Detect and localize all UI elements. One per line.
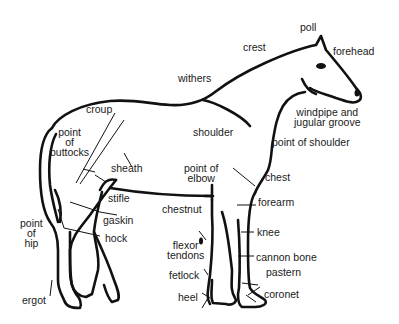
label-cannon-bone: cannon bone: [256, 252, 317, 262]
label-point-of-buttocks: point of buttocks: [50, 127, 89, 157]
label-fetlock: fetlock: [169, 270, 199, 280]
label-flexor-tendons: flexor tendons: [167, 240, 204, 260]
label-ergot: ergot: [22, 295, 46, 305]
label-heel: heel: [178, 292, 198, 302]
label-shoulder: shoulder: [193, 127, 233, 137]
label-coronet: coronet: [264, 289, 299, 299]
label-crest: crest: [243, 42, 266, 52]
label-withers: withers: [178, 73, 211, 83]
label-hock: hock: [105, 233, 127, 243]
label-windpipe-jugular-groove: windpipe and jugular groove: [294, 107, 361, 127]
label-chestnut: chestnut: [162, 204, 202, 214]
label-point-of-shoulder: point of shoulder: [272, 137, 350, 147]
label-forearm: forearm: [258, 197, 294, 207]
label-croup: croup: [86, 104, 112, 114]
label-stifle: stifle: [108, 193, 130, 203]
label-sheath: sheath: [111, 163, 143, 173]
label-point-of-elbow: point of elbow: [184, 163, 218, 183]
label-forehead: forehead: [333, 46, 374, 56]
label-chest: chest: [265, 172, 290, 182]
label-pastern: pastern: [266, 267, 301, 277]
horse-anatomy-diagram: poll crest forehead withers croup windpi…: [0, 0, 399, 324]
label-gaskin: gaskin: [103, 215, 133, 225]
label-point-of-hip: point of hip: [20, 218, 43, 248]
label-poll: poll: [300, 22, 316, 32]
label-knee: knee: [257, 227, 280, 237]
